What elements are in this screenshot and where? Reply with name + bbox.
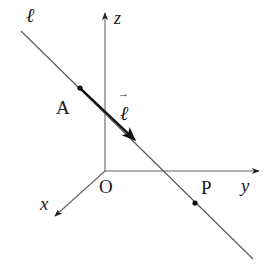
x-axis [55, 171, 105, 216]
point-p-marker [192, 200, 197, 205]
x-axis-label: x [39, 193, 49, 214]
point-a-marker [77, 85, 82, 90]
point-a-label: A [56, 97, 70, 118]
vector-arrow-accent: → [118, 87, 129, 99]
diagram-canvas: ℓ z A ℓ → O P y x [0, 0, 279, 276]
coordinate-diagram: ℓ z A ℓ → O P y x [0, 0, 279, 276]
point-p-label: P [201, 177, 212, 198]
vector-label: ℓ [120, 102, 129, 124]
line-label: ℓ [26, 4, 35, 26]
line-l [21, 31, 253, 259]
z-axis-label: z [113, 8, 121, 28]
origin-label: O [99, 176, 113, 197]
y-axis-label: y [239, 175, 250, 196]
